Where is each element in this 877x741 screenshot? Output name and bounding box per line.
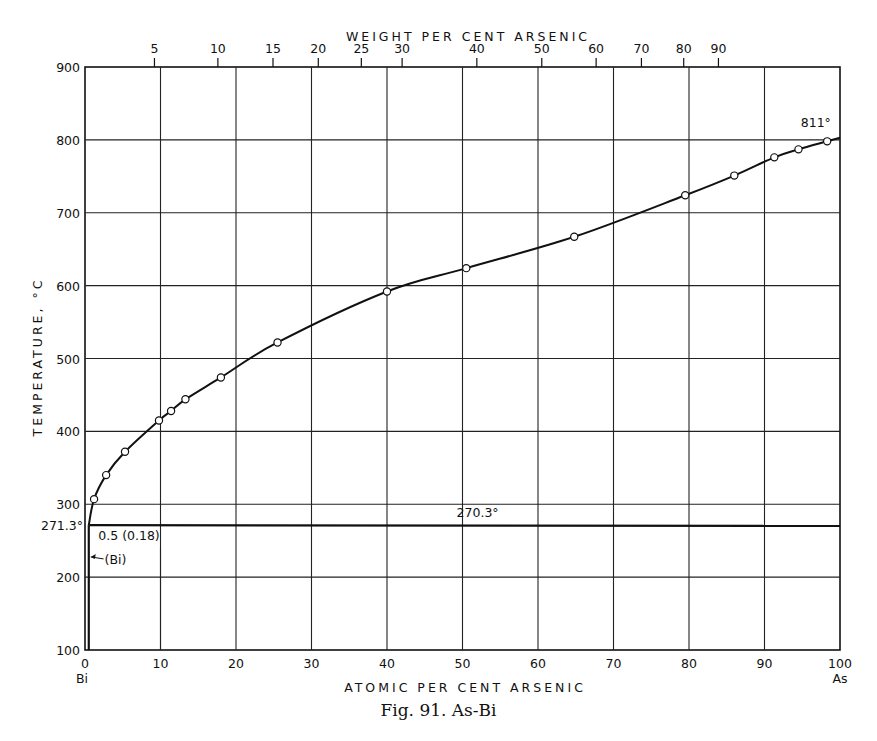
y-axis-title: TEMPERATURE, °C xyxy=(30,278,45,438)
data-point-marker xyxy=(274,339,281,346)
data-point-marker xyxy=(383,288,390,295)
x-tick-label: 100 xyxy=(828,656,852,671)
top-tick-label: 15 xyxy=(265,41,281,56)
x-tick-label: 0 xyxy=(81,656,89,671)
y-tick-label: 900 xyxy=(56,60,80,75)
data-point-marker xyxy=(182,396,189,403)
data-point-marker xyxy=(731,172,738,179)
x-axis-title: ATOMIC PER CENT ARSENIC xyxy=(344,680,586,695)
series-line xyxy=(89,525,840,526)
data-point-marker xyxy=(155,417,162,424)
top-tick-label: 5 xyxy=(150,41,158,56)
data-point-marker xyxy=(682,192,689,199)
x-tick-label: 30 xyxy=(304,656,320,671)
data-point-marker xyxy=(463,265,470,272)
x-tick-label: 10 xyxy=(153,656,169,671)
annotation-270-3: 270.3° xyxy=(457,505,499,520)
data-point-marker xyxy=(795,146,802,153)
top-tick-label: 70 xyxy=(633,41,649,56)
data-point-marker xyxy=(167,407,174,414)
top-axis-title: WEIGHT PER CENT ARSENIC xyxy=(346,29,590,44)
x-tick-label: 70 xyxy=(606,656,622,671)
x-tick-label: 40 xyxy=(379,656,395,671)
data-point-marker xyxy=(217,374,224,381)
top-tick-label: 20 xyxy=(310,41,326,56)
top-tick-label: 60 xyxy=(588,41,604,56)
annotation-271-3: 271.3° xyxy=(41,518,83,533)
top-tick-label: 90 xyxy=(710,41,726,56)
data-point-marker xyxy=(90,496,97,503)
x-end-label-bi: Bi xyxy=(76,671,88,686)
y-tick-label: 400 xyxy=(56,424,80,439)
annotation-bi-phase: (Bi) xyxy=(105,552,127,567)
data-point-marker xyxy=(121,448,128,455)
axis-labels: 0102030405060708090100100200300400500600… xyxy=(41,41,852,686)
annotation-811: 811° xyxy=(801,115,831,130)
phase-diagram-chart: 0102030405060708090100100200300400500600… xyxy=(0,0,877,741)
curves xyxy=(89,138,840,650)
annotation-eutectic-composition: 0.5 (0.18) xyxy=(98,528,159,543)
x-tick-label: 50 xyxy=(455,656,471,671)
top-tick-label: 80 xyxy=(676,41,692,56)
top-tick-label: 10 xyxy=(210,41,226,56)
x-end-label-as: As xyxy=(832,671,847,686)
x-tick-label: 20 xyxy=(228,656,244,671)
figure-caption: Fig. 91. As-Bi xyxy=(0,700,877,720)
x-tick-label: 90 xyxy=(757,656,773,671)
y-tick-label: 100 xyxy=(56,643,80,658)
x-tick-label: 60 xyxy=(530,656,546,671)
data-point-marker xyxy=(571,233,578,240)
y-tick-label: 600 xyxy=(56,279,80,294)
y-tick-label: 200 xyxy=(56,570,80,585)
y-tick-label: 500 xyxy=(56,352,80,367)
y-tick-label: 300 xyxy=(56,497,80,512)
arrowhead-icon xyxy=(91,554,96,559)
y-tick-label: 800 xyxy=(56,133,80,148)
data-point-marker xyxy=(771,154,778,161)
y-tick-label: 700 xyxy=(56,206,80,221)
data-point-marker xyxy=(103,472,110,479)
data-point-marker xyxy=(824,138,831,145)
x-tick-label: 80 xyxy=(681,656,697,671)
grid xyxy=(85,58,840,650)
series-line xyxy=(89,138,840,525)
